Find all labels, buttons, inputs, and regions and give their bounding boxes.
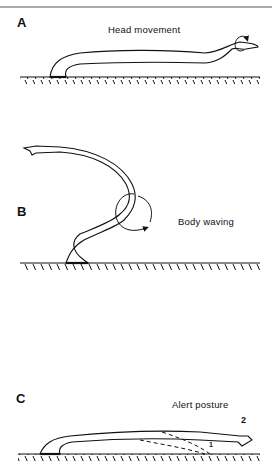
panel-b-drawing (20, 146, 260, 270)
position-label-2: 2 (241, 415, 246, 425)
ground-hatch-b (20, 263, 260, 270)
animal-body-b (24, 146, 135, 263)
panel-a-letter: A (17, 15, 26, 30)
figure-canvas (0, 0, 272, 463)
panel-c-drawing (18, 431, 260, 461)
panel-a-caption: Head movement (108, 24, 180, 35)
position-label-1: 1 (209, 441, 213, 448)
animal-body-a (50, 42, 258, 77)
panel-c-letter: C (16, 391, 25, 406)
panel-c-caption: Alert posture (172, 399, 228, 410)
panel-b-caption: Body waving (178, 216, 234, 227)
animal-body-c (40, 431, 252, 454)
panel-b-letter: B (17, 204, 26, 219)
panel-a-drawing (20, 36, 260, 84)
